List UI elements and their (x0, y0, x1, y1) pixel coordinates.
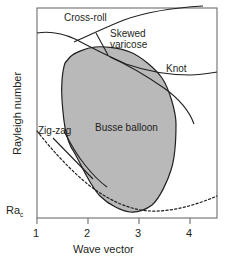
x-axis-tick-label-2: 2 (84, 228, 90, 239)
x-axis-tick-label-3: 3 (135, 228, 141, 239)
annotation-busse-balloon: Busse balloon (95, 123, 158, 133)
y-axis-origin-label-main: Ra (6, 204, 20, 216)
annotation-skewed-varicose-line2: varicose (110, 40, 147, 50)
annotation-knot: Knot (166, 64, 187, 74)
annotation-cross-roll: Cross-roll (64, 13, 107, 23)
annotation-zig-zag: Zig-zag (38, 126, 71, 136)
x-axis-ticks (37, 218, 190, 224)
x-axis-tick-label-4: 4 (186, 228, 192, 239)
y-axis-origin-label: Rac (6, 205, 23, 219)
x-axis-label: Wave vector (73, 244, 134, 255)
y-axis-label: Rayleigh number (12, 72, 23, 155)
busse-balloon-figure: Cross-roll Skewed varicose Knot Zig-zag … (0, 0, 228, 263)
annotation-skewed-varicose-line1: Skewed (110, 29, 146, 39)
x-axis-tick-label-1: 1 (33, 228, 39, 239)
y-axis-origin-label-subscript: c (20, 211, 23, 218)
